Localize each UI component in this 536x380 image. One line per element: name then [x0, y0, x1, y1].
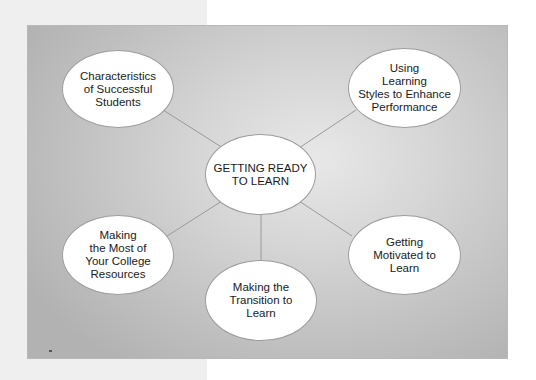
- stray-mark: [49, 350, 52, 352]
- node-label: Making the Transition to Learn: [226, 281, 297, 320]
- node-characteristics: Characteristics of Successful Students: [62, 50, 174, 128]
- node-motivated: Getting Motivated to Learn: [348, 215, 461, 295]
- page: Characteristics of Successful Students U…: [0, 0, 536, 380]
- node-label: Making the Most of Your College Resource…: [81, 229, 154, 281]
- node-label: Characteristics of Successful Students: [76, 70, 160, 109]
- node-learning-styles: Using Learning Styles to Enhance Perform…: [348, 48, 461, 128]
- node-label: Using Learning Styles to Enhance Perform…: [354, 62, 455, 114]
- center-label: GETTING READY TO LEARN: [210, 162, 312, 188]
- node-center-getting-ready: GETTING READY TO LEARN: [205, 134, 316, 215]
- node-label: Getting Motivated to Learn: [369, 236, 440, 275]
- node-college-resources: Making the Most of Your College Resource…: [62, 215, 174, 295]
- node-transition: Making the Transition to Learn: [205, 260, 317, 341]
